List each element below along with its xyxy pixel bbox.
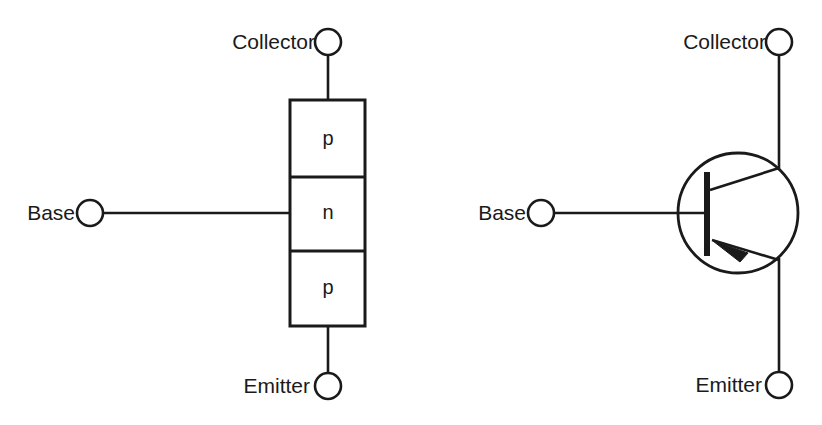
pnp-circuit-symbol-group: Collector Base Emitter <box>478 29 798 398</box>
region-label-base-n: n <box>322 201 333 223</box>
right-collector-label: Collector <box>683 30 766 53</box>
right-base-terminal-circle[interactable] <box>528 200 554 226</box>
region-label-collector-p: p <box>322 127 333 149</box>
right-collector-terminal-circle[interactable] <box>766 29 792 55</box>
right-base-label: Base <box>478 201 526 224</box>
left-collector-label: Collector <box>232 30 315 53</box>
pnp-layer-structure-group: Collector p n p Base Emitter <box>27 29 365 399</box>
right-emitter-label: Emitter <box>695 373 762 396</box>
pnp-transistor-diagram: Collector p n p Base Emitter Collector <box>0 0 822 425</box>
region-label-emitter-p: p <box>322 276 333 298</box>
left-base-terminal-circle[interactable] <box>77 200 103 226</box>
diagram-canvas: Collector p n p Base Emitter Collector <box>0 0 822 425</box>
left-emitter-label: Emitter <box>243 374 310 397</box>
left-collector-terminal-circle[interactable] <box>315 29 341 55</box>
left-emitter-terminal-circle[interactable] <box>315 373 341 399</box>
left-base-label: Base <box>27 201 75 224</box>
right-emitter-terminal-circle[interactable] <box>766 372 792 398</box>
